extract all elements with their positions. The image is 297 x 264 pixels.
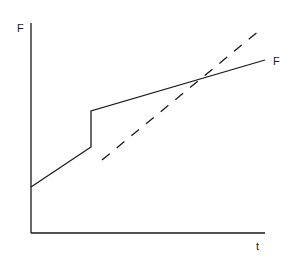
dashed-extrapolation-line <box>102 30 260 160</box>
diagram-canvas: F t F <box>0 0 297 264</box>
curve-label-f: F <box>273 55 280 67</box>
x-axis-label: t <box>256 240 259 252</box>
axes <box>31 23 265 233</box>
y-axis-label: F <box>17 22 24 34</box>
solid-curve-f <box>31 60 265 187</box>
